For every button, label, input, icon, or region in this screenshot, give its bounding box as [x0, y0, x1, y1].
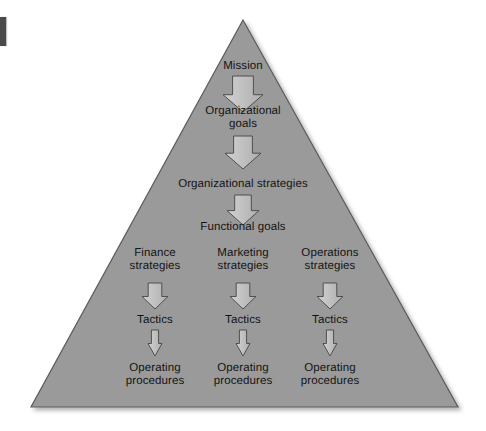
label-marketing-procedures: Operating procedures	[214, 362, 273, 388]
label-marketing-strategies: Marketing strategies	[217, 247, 268, 273]
label-marketing-tactics: Tactics	[225, 314, 261, 327]
label-operations-tactics: Tactics	[312, 314, 348, 327]
label-finance-strategies: Finance strategies	[130, 247, 181, 273]
label-organizational-goals: Organizational goals	[205, 105, 281, 131]
label-functional-goals: Functional goals	[200, 221, 285, 234]
label-mission: Mission	[223, 60, 263, 73]
label-operations-strategies: Operations strategies	[301, 247, 358, 273]
label-finance-tactics: Tactics	[137, 314, 173, 327]
label-finance-procedures: Operating procedures	[126, 362, 185, 388]
label-organizational-strategies: Organizational strategies	[178, 178, 308, 191]
label-operations-procedures: Operating procedures	[301, 362, 360, 388]
diagram-canvas: MissionOrganizational goalsOrganizationa…	[0, 0, 486, 431]
